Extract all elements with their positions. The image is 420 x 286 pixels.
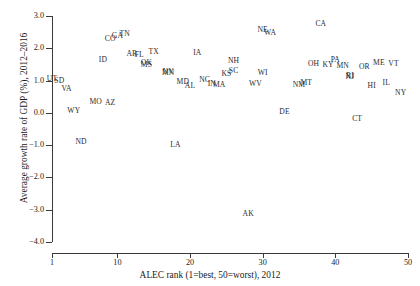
- x-tick-label: 20: [186, 259, 194, 267]
- x-tick-label: 50: [404, 259, 412, 267]
- data-point-label: TN: [120, 30, 130, 38]
- data-point-label: AZ: [105, 99, 115, 107]
- data-point-label: IL: [383, 79, 390, 87]
- data-point-label: WA: [264, 29, 276, 37]
- data-point-label: TX: [149, 48, 159, 56]
- data-point-label: MA: [213, 82, 225, 90]
- y-tick-mark: [46, 242, 52, 243]
- data-point-label: VA: [61, 85, 71, 93]
- x-axis-line: [52, 253, 408, 254]
- y-tick-mark: [46, 113, 52, 114]
- data-point-label: SC: [229, 67, 239, 75]
- x-axis-title: ALEC rank (1=best, 50=worst), 2012: [0, 270, 420, 280]
- plot-area: [52, 16, 408, 242]
- data-point-label: AK: [243, 210, 254, 218]
- data-point-label: OR: [359, 63, 370, 71]
- y-tick-mark: [46, 177, 52, 178]
- data-point-label: NV: [163, 68, 174, 76]
- y-axis-title: Average growth rate of GDP (%), 2012–201…: [19, 0, 29, 238]
- scatter-plot-figure: −4.0−3.0−2.0−1.00.01.02.03.0 11020304050…: [0, 0, 420, 286]
- y-tick-mark: [46, 210, 52, 211]
- data-point-label: MT: [301, 79, 313, 87]
- data-point-label: AL: [185, 83, 195, 91]
- data-point-label: IA: [193, 49, 201, 57]
- data-point-label: WV: [249, 81, 262, 89]
- data-point-label: VT: [388, 60, 398, 68]
- data-point-label: MS: [141, 61, 152, 69]
- data-point-label: WY: [67, 107, 80, 115]
- data-point-label: NH: [228, 57, 239, 65]
- data-point-label: MO: [89, 98, 101, 106]
- x-tick-label: 30: [259, 259, 267, 267]
- y-axis-line: [52, 16, 53, 242]
- x-tick-label: 10: [113, 259, 121, 267]
- data-point-label: ID: [99, 56, 107, 64]
- y-tick-mark: [46, 16, 52, 17]
- x-tick-label: 40: [331, 259, 339, 267]
- data-point-label: ME: [373, 59, 385, 67]
- data-point-label: NY: [395, 89, 406, 97]
- y-tick-mark: [46, 145, 52, 146]
- x-tick-label: 1: [50, 259, 54, 267]
- data-point-label: HI: [368, 83, 376, 91]
- data-point-label: CA: [315, 20, 326, 28]
- data-point-label: ND: [76, 138, 87, 146]
- data-point-label: LA: [170, 141, 180, 149]
- data-point-label: RI: [346, 72, 354, 80]
- data-point-label: DE: [279, 108, 289, 116]
- data-point-label: MN: [336, 62, 348, 70]
- y-tick-label: −4.0: [10, 238, 44, 246]
- data-point-label: CT: [352, 115, 362, 123]
- data-point-label: WI: [258, 69, 268, 77]
- y-tick-mark: [46, 48, 52, 49]
- data-point-label: OH: [308, 61, 319, 69]
